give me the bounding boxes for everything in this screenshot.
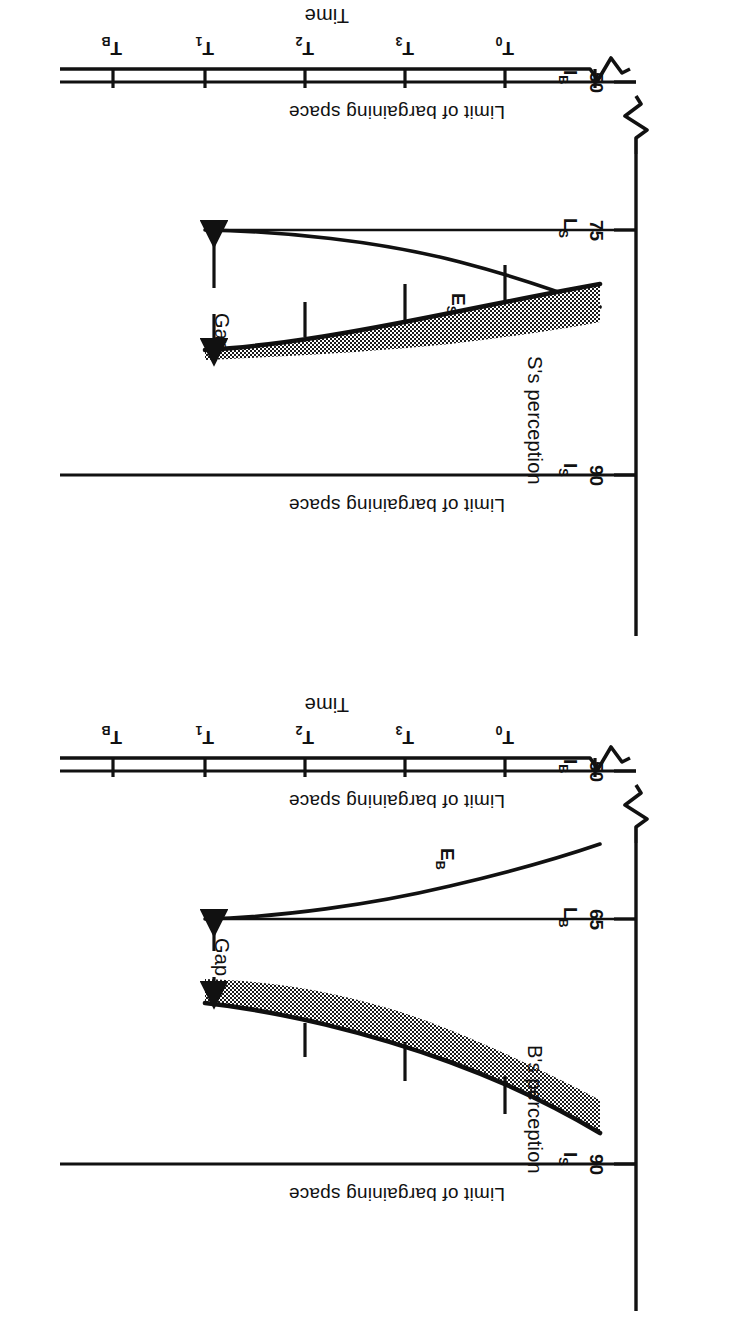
time-tick-label-tb-s: TB	[101, 35, 122, 58]
limit-label-ib-s: Limit of bargaining space	[289, 103, 505, 122]
value-tick-sublabel-ib-s: IB	[557, 70, 580, 84]
plot-canvas-b	[0, 667, 750, 1333]
value-tick-label-90-s: 90	[587, 465, 606, 486]
value-tick-sublabel-ib-b: IB	[557, 759, 580, 773]
value-axis-title-s: S's perception	[525, 356, 545, 485]
chart-panel-s-perception: Limit of bargaining space Limit of barga…	[0, 0, 750, 666]
value-tick-sublabel-is-s: IS	[557, 463, 580, 477]
value-tick-sublabel-lb-b: LB	[557, 907, 580, 928]
value-tick-label-65-b: 65	[587, 909, 606, 930]
time-tick-label-t3-s: T3	[395, 35, 414, 58]
time-tick-label-tb-b: TB	[101, 724, 122, 747]
time-tick-label-t0-s: T0	[495, 35, 514, 58]
time-axis-title-b: Time	[304, 695, 349, 715]
time-tick-label-t3-b: T3	[395, 724, 414, 747]
value-tick-label-50-b: 50	[587, 761, 606, 782]
curve-label-es: ES	[445, 293, 468, 314]
limit-label-ib-b: Limit of bargaining space	[289, 792, 505, 811]
curve-eb	[205, 844, 600, 919]
curve-label-eb: EB	[434, 848, 457, 870]
gap-label-s: Gap	[212, 313, 232, 351]
value-tick-sublabel-is-b: IS	[557, 1152, 580, 1166]
time-axis-title-s: Time	[304, 6, 349, 26]
value-axis-title-b: B's perception	[525, 1045, 545, 1174]
value-tick-label-50-s: 50	[587, 72, 606, 93]
chart-panel-b-perception: Limit of bargaining space Limit of barga…	[0, 667, 750, 1333]
value-axis-b	[614, 771, 647, 1311]
time-tick-label-t2-b: T2	[295, 724, 314, 747]
limit-label-is-s: Limit of bargaining space	[289, 496, 505, 515]
limit-label-is-b: Limit of bargaining space	[289, 1185, 505, 1204]
value-tick-label-90-b: 90	[587, 1154, 606, 1175]
gap-label-b: Gap	[212, 938, 232, 976]
time-tick-label-t0-b: T0	[495, 724, 514, 747]
plot-canvas-s	[0, 0, 750, 666]
value-axis-s	[614, 82, 647, 636]
value-tick-label-75-s: 75	[587, 220, 606, 241]
value-tick-sublabel-ls-s: LS	[557, 218, 580, 238]
time-tick-label-t2-s: T2	[295, 35, 314, 58]
time-tick-label-t1-s: T1	[195, 35, 214, 58]
time-tick-label-t1-b: T1	[195, 724, 214, 747]
